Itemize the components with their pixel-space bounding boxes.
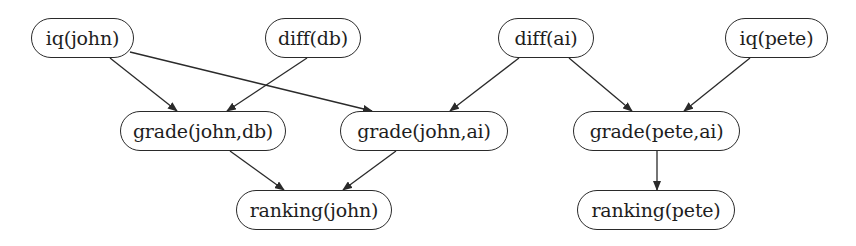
node-grade-john-ai: grade(john,ai) [340, 111, 508, 151]
edge-grade_john_ai-to-ranking_john [343, 151, 396, 190]
node-label: grade(john,ai) [357, 120, 490, 142]
edge-diff_ai-to-grade_pete_ai [569, 58, 632, 111]
node-label: diff(db) [278, 27, 348, 49]
node-label: iq(john) [46, 27, 119, 49]
node-label: grade(pete,ai) [590, 120, 724, 142]
node-diff-ai: diff(ai) [498, 18, 594, 58]
node-grade-john-db: grade(john,db) [120, 111, 286, 151]
node-label: ranking(john) [250, 199, 379, 221]
node-label: diff(ai) [515, 27, 578, 49]
edge-grade_john_db-to-ranking_john [230, 151, 284, 190]
node-label: iq(pete) [740, 27, 814, 49]
node-label: grade(john,db) [133, 120, 273, 142]
node-diff-db: diff(db) [265, 18, 361, 58]
edge-diff_ai-to-grade_john_ai [450, 58, 519, 111]
node-iq-john: iq(john) [31, 18, 134, 58]
node-ranking-john: ranking(john) [236, 190, 392, 230]
edge-iq_pete-to-grade_pete_ai [684, 58, 750, 111]
bayesian-network-diagram: iq(john) diff(db) diff(ai) iq(pete) grad… [0, 0, 856, 246]
edge-iq_john-to-grade_john_db [110, 58, 177, 111]
edge-diff_db-to-grade_john_db [227, 58, 307, 111]
node-ranking-pete: ranking(pete) [577, 190, 735, 230]
node-label: ranking(pete) [591, 199, 720, 221]
node-iq-pete: iq(pete) [725, 18, 828, 58]
node-grade-pete-ai: grade(pete,ai) [573, 111, 740, 151]
